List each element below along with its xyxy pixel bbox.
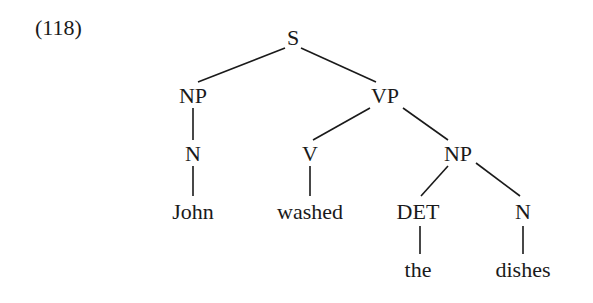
leaf-the: the xyxy=(405,259,432,281)
leaf-john: John xyxy=(172,201,214,223)
node-np-object: NP xyxy=(444,143,472,165)
node-n-subject: N xyxy=(185,143,201,165)
node-s: S xyxy=(287,27,299,49)
node-n-object: N xyxy=(515,201,531,223)
node-vp: VP xyxy=(371,85,399,107)
edge-np-det xyxy=(421,166,448,196)
node-np-subject: NP xyxy=(179,85,207,107)
node-v: V xyxy=(302,143,318,165)
edge-s-vp xyxy=(301,48,376,82)
edge-np-n2 xyxy=(476,163,520,196)
leaf-washed: washed xyxy=(277,201,343,223)
edge-vp-np xyxy=(403,108,448,140)
edge-vp-v xyxy=(313,108,370,140)
edge-s-np xyxy=(198,48,285,82)
node-det: DET xyxy=(397,201,440,223)
leaf-dishes: dishes xyxy=(496,259,551,281)
